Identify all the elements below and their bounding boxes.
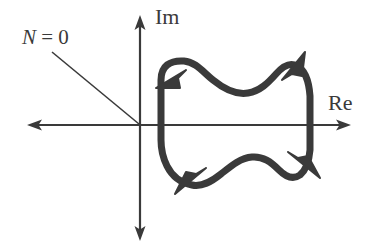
encirclement-annotation-label: N = 0 (22, 27, 69, 48)
axes-group (27, 15, 351, 241)
imaginary-axis-label: Im (155, 6, 179, 28)
annotation-leader-line (52, 52, 139, 124)
real-axis (27, 120, 351, 131)
contour-path-group (156, 52, 320, 194)
annotation-value: = 0 (36, 25, 69, 49)
contour-curve (161, 61, 310, 186)
imaginary-axis (135, 15, 146, 241)
annotation-symbol: N (22, 25, 36, 49)
real-axis-label: Re (328, 92, 352, 114)
nyquist-contour-figure: Im Re N = 0 (0, 0, 368, 252)
